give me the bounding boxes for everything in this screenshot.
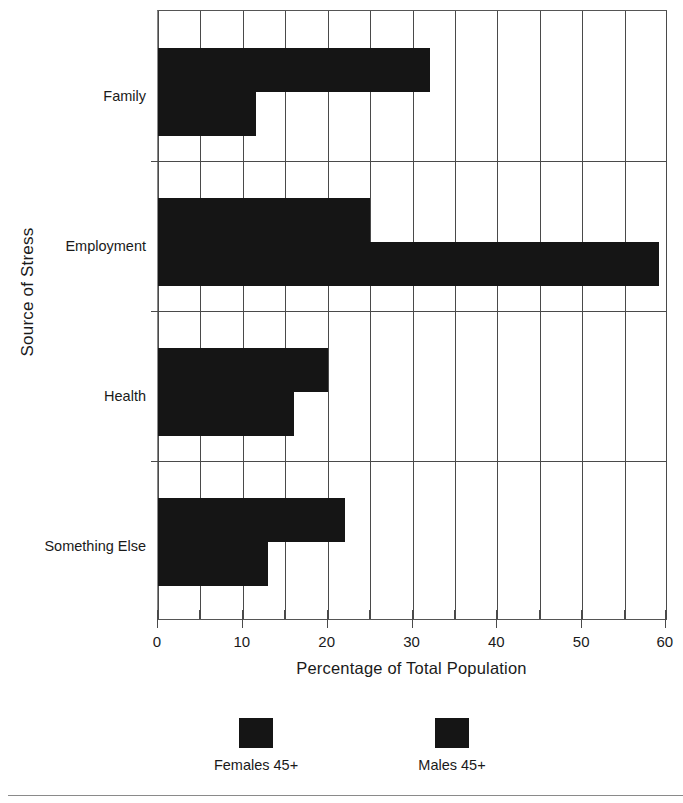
x-axis-title: Percentage of Total Population [157, 659, 666, 678]
legend-entry-males-45plus: Males 45+ [352, 718, 552, 773]
legend-label-males-45plus: Males 45+ [352, 757, 552, 773]
bar-employment-males-45plus [158, 242, 659, 286]
category-label-something-else: Something Else [9, 538, 157, 554]
y-axis-tick-1 [151, 161, 158, 162]
x-axis-tick-5 [199, 610, 200, 619]
gridline-x-30 [413, 11, 414, 619]
gridline-x-50 [582, 11, 583, 619]
x-axis-tick-40 [496, 610, 497, 628]
x-axis-tick-25 [369, 610, 370, 619]
x-axis-tick-45 [539, 610, 540, 619]
x-axis-tick-10 [242, 610, 243, 628]
category-label-health: Health [9, 388, 157, 404]
gridline-x-55 [625, 11, 626, 619]
x-axis-tick-0 [157, 610, 158, 628]
x-axis-label-50: 50 [551, 633, 611, 650]
bar-health-females-45plus [158, 348, 328, 392]
y-axis-category-labels: Family Employment Health Something Else [0, 10, 157, 618]
x-axis-label-40: 40 [466, 633, 526, 650]
y-axis-tick-3 [151, 461, 158, 462]
chart-legend: Females 45+ Males 45+ [0, 718, 683, 780]
category-separator-2 [158, 311, 667, 312]
legend-label-females-45plus: Females 45+ [156, 757, 356, 773]
category-label-family: Family [9, 88, 157, 104]
bar-health-males-45plus [158, 392, 294, 436]
x-axis-tick-15 [284, 610, 285, 619]
bar-family-females-45plus [158, 48, 430, 92]
gridline-x-40 [497, 11, 498, 619]
bar-employment-females-45plus [158, 198, 370, 242]
category-separator-3 [158, 461, 667, 462]
category-label-employment: Employment [9, 238, 157, 254]
x-axis-tick-55 [624, 610, 625, 619]
x-axis-tick-35 [454, 610, 455, 619]
x-axis-tick-30 [412, 610, 413, 628]
x-axis-label-60: 60 [635, 633, 683, 650]
x-axis-tick-50 [581, 610, 582, 628]
x-axis-tick-20 [327, 610, 328, 628]
legend-swatch-females-icon [239, 718, 273, 748]
gridline-x-60 [666, 11, 667, 619]
bar-something-else-females-45plus [158, 498, 345, 542]
bar-chart-figure: Source of Stress Family Employment Healt… [0, 0, 683, 803]
x-axis-label-10: 10 [212, 633, 272, 650]
page-bottom-rule [8, 795, 683, 796]
gridline-x-35 [455, 11, 456, 619]
gridline-x-25 [370, 11, 371, 619]
bar-something-else-males-45plus [158, 542, 268, 586]
x-axis-tick-60 [665, 610, 666, 628]
plot-area [157, 10, 667, 620]
y-axis-tick-2 [151, 311, 158, 312]
gridline-x-45 [540, 11, 541, 619]
x-axis-label-0: 0 [127, 633, 187, 650]
legend-entry-females-45plus: Females 45+ [156, 718, 356, 773]
bar-family-males-45plus [158, 92, 256, 136]
x-axis-label-30: 30 [382, 633, 442, 650]
category-separator-1 [158, 161, 667, 162]
x-axis-label-20: 20 [297, 633, 357, 650]
legend-swatch-males-icon [435, 718, 469, 748]
